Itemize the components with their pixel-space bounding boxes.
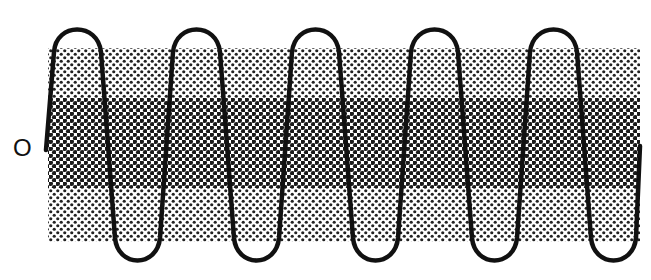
lower-light-band xyxy=(48,188,640,242)
wave-diagram xyxy=(0,0,651,280)
